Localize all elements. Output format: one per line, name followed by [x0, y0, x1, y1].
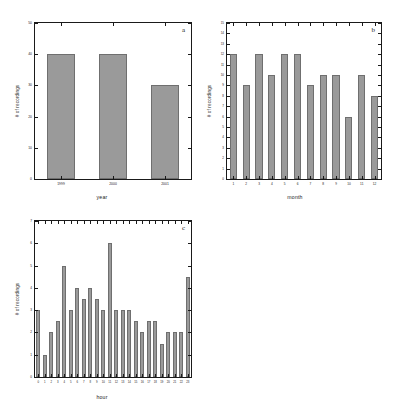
bar	[108, 243, 112, 377]
y-tick	[227, 65, 230, 66]
x-tick	[123, 374, 124, 377]
x-tick-label: 1999	[57, 182, 65, 186]
x-tick	[58, 374, 59, 377]
y-tick-label: 5	[22, 264, 32, 268]
x-tick	[181, 374, 182, 377]
panel-b-plot-area: b	[226, 22, 382, 180]
y-tick-right	[378, 96, 381, 97]
bar	[140, 332, 144, 377]
x-tick-top	[362, 23, 363, 26]
y-tick-label: 1	[214, 167, 224, 171]
y-tick	[227, 137, 230, 138]
y-tick-right	[188, 148, 191, 149]
x-tick-label: 15	[134, 380, 137, 384]
y-tick-right	[378, 106, 381, 107]
y-tick	[227, 33, 230, 34]
x-tick-label: 22	[180, 380, 183, 384]
x-tick	[336, 176, 337, 179]
bar	[281, 54, 288, 179]
panel-c: # of recordings c hour 01234567891011121…	[6, 206, 198, 406]
x-tick	[259, 176, 260, 179]
panel-c-plot-area: c	[34, 220, 192, 378]
x-tick	[175, 374, 176, 377]
x-tick-label: 4	[63, 380, 65, 384]
y-tick-right	[378, 169, 381, 170]
x-tick-top	[246, 23, 247, 26]
bar	[345, 117, 352, 179]
x-tick	[45, 374, 46, 377]
x-tick-top	[155, 221, 156, 224]
y-tick	[35, 310, 38, 311]
x-tick-top	[310, 23, 311, 26]
bar	[134, 321, 138, 377]
x-tick	[298, 176, 299, 179]
y-tick-right	[188, 179, 191, 180]
x-tick-top	[77, 221, 78, 224]
y-tick-right	[188, 310, 191, 311]
panel-a-letter: a	[182, 26, 185, 34]
y-tick-label: 2	[214, 156, 224, 160]
panel-a: # of recordings a year 19992000200101020…	[6, 8, 198, 206]
x-tick-top	[90, 221, 91, 224]
x-tick-label: 2	[245, 182, 247, 186]
y-tick-label: 7	[214, 104, 224, 108]
y-tick-label: 6	[214, 115, 224, 119]
y-tick-label: 4	[214, 135, 224, 139]
x-tick-label: 12	[373, 182, 377, 186]
y-tick-label: 40	[22, 52, 32, 56]
x-tick-label: 23	[186, 380, 189, 384]
x-tick	[155, 374, 156, 377]
x-tick	[285, 176, 286, 179]
panel-b-x-axis-label: month	[200, 194, 390, 200]
x-tick	[162, 374, 163, 377]
panel-a-x-axis-label: year	[6, 194, 198, 200]
panel-a-bars	[35, 23, 191, 179]
x-tick-top	[298, 23, 299, 26]
y-tick-right	[378, 127, 381, 128]
y-tick-label: 1	[22, 353, 32, 357]
bar	[186, 277, 190, 377]
x-tick	[51, 374, 52, 377]
x-tick	[116, 374, 117, 377]
y-tick	[227, 179, 230, 180]
x-tick-top	[165, 23, 166, 26]
bar	[49, 332, 53, 377]
panel-c-x-axis-label: hour	[6, 394, 198, 400]
y-tick-right	[378, 179, 381, 180]
y-tick	[227, 96, 230, 97]
x-tick-top	[116, 221, 117, 224]
bar	[82, 299, 86, 377]
y-tick-right	[188, 85, 191, 86]
bar	[230, 54, 237, 179]
x-tick-top	[168, 221, 169, 224]
x-tick-label: 17	[147, 380, 150, 384]
bar	[358, 75, 365, 179]
y-tick	[35, 117, 38, 118]
y-tick-right	[188, 355, 191, 356]
bar	[95, 299, 99, 377]
x-tick-label: 19	[160, 380, 163, 384]
x-tick-top	[113, 23, 114, 26]
bar	[56, 321, 60, 377]
y-tick-right	[378, 137, 381, 138]
x-tick	[61, 176, 62, 179]
x-tick-top	[336, 23, 337, 26]
x-tick	[375, 176, 376, 179]
y-tick-right	[378, 23, 381, 24]
x-tick-top	[259, 23, 260, 26]
x-tick-top	[285, 23, 286, 26]
y-tick-right	[378, 65, 381, 66]
x-tick-top	[61, 23, 62, 26]
y-tick-label: 12	[214, 52, 224, 56]
y-tick	[227, 148, 230, 149]
x-tick-top	[349, 23, 350, 26]
x-tick-label: 7	[310, 182, 312, 186]
y-tick-right	[188, 377, 191, 378]
x-tick-label: 5	[70, 380, 72, 384]
bar	[99, 54, 126, 179]
y-tick-label: 15	[214, 21, 224, 25]
x-tick	[103, 374, 104, 377]
y-tick	[35, 85, 38, 86]
x-tick	[38, 374, 39, 377]
x-tick-label: 10	[347, 182, 351, 186]
